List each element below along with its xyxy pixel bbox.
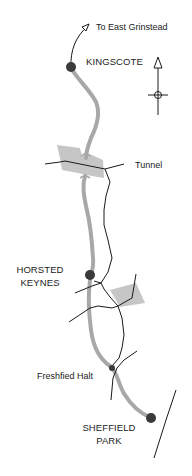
station-label-horsted-keynes: HORSTED KEYNES [12,265,68,287]
tunnel-label: Tunnel [135,161,162,170]
station-dot-horsted-keynes[interactable] [85,270,95,280]
station-dot-sheffield-park[interactable] [146,413,156,423]
road-horsted-west [75,283,118,306]
road-horsted-southwest [69,306,124,366]
station-label-kingscote: KINGSCOTE [86,57,143,67]
station-label-line1: SHEFFIELD [78,423,140,433]
road-east [94,169,112,283]
station-dot-kingscote[interactable] [66,62,76,72]
north-arrow-icon [148,57,168,115]
station-label-line2: PARK [78,436,140,446]
station-dot-freshfield-halt[interactable] [109,365,115,371]
station-label-sheffield-park: SHEFFIELD PARK [78,423,140,445]
station-label-line1: HORSTED [12,265,68,275]
direction-arrowhead-icon [82,24,89,31]
direction-label: To East Grinstead [96,23,168,32]
station-label-freshfield-halt: Freshfied Halt [37,372,93,381]
route-map [0,0,192,476]
road-sheffield-east [154,390,176,458]
station-label-line2: KEYNES [12,278,68,288]
